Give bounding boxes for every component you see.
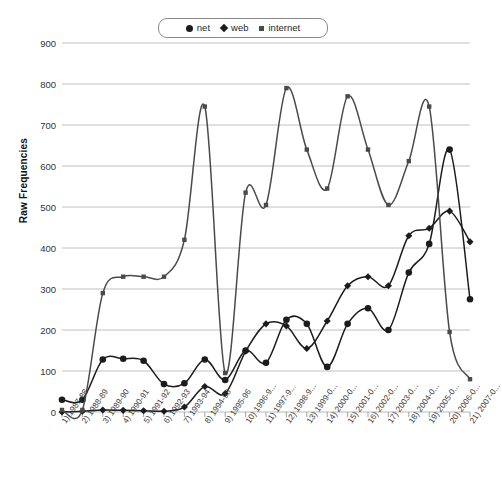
data-point-net (202, 356, 209, 363)
data-point-net (181, 380, 188, 387)
data-point-internet (366, 147, 370, 151)
data-point-net (304, 321, 311, 328)
data-point-net (365, 305, 372, 312)
data-point-internet (264, 203, 268, 207)
data-point-internet (182, 238, 186, 242)
data-point-internet (427, 104, 431, 108)
data-point-web (324, 317, 331, 324)
data-point-internet (141, 275, 145, 279)
data-point-net (263, 360, 270, 367)
data-point-net (426, 241, 433, 248)
series-line-web (62, 211, 470, 412)
data-point-internet (325, 186, 329, 190)
data-point-internet (386, 203, 390, 207)
data-point-net (59, 396, 66, 403)
data-point-internet (121, 275, 125, 279)
data-point-internet (101, 291, 105, 295)
data-point-internet (80, 408, 84, 412)
data-point-net (467, 296, 474, 303)
data-point-net (344, 321, 351, 328)
data-point-net (283, 316, 290, 323)
data-point-net (406, 269, 413, 276)
data-point-net (324, 364, 331, 371)
data-point-net (385, 327, 392, 334)
data-point-net (100, 356, 107, 363)
data-point-internet (60, 408, 64, 412)
data-point-internet (345, 94, 349, 98)
data-point-internet (407, 159, 411, 163)
data-point-net (140, 357, 147, 364)
data-point-web (466, 238, 473, 245)
data-point-internet (162, 275, 166, 279)
data-point-net (222, 377, 229, 384)
data-point-internet (284, 86, 288, 90)
data-point-internet (305, 147, 309, 151)
data-point-internet (468, 377, 472, 381)
data-point-web (364, 273, 371, 280)
data-point-net (446, 146, 453, 153)
series-line-internet (62, 87, 470, 419)
data-point-internet (223, 371, 227, 375)
data-point-internet (243, 190, 247, 194)
data-point-web (303, 345, 310, 352)
data-point-net (120, 355, 127, 362)
data-point-internet (203, 104, 207, 108)
data-point-internet (447, 330, 451, 334)
